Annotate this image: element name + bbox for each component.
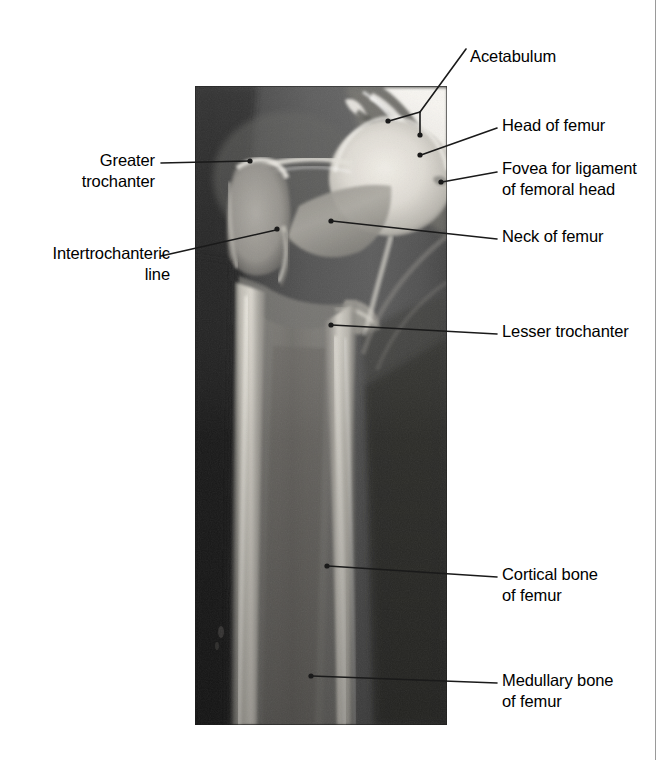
label-neck-of-femur: Neck of femur [502,226,603,247]
page-margin-rule [655,0,656,760]
label-medullary-bone-of-femur: Medullary bone of femur [502,670,613,712]
anatomy-figure: Acetabulum Head of femur Fovea for ligam… [0,0,669,760]
film-grain-overlay [195,86,447,725]
radiograph-content [195,86,447,725]
label-intertrochanteric-line: Intertrochanteric line [52,243,170,285]
label-lesser-trochanter: Lesser trochanter [502,321,629,342]
label-cortical-bone-of-femur: Cortical bone of femur [502,564,598,606]
radiograph-canvas [195,86,447,725]
label-greater-trochanter: Greater trochanter [82,150,155,192]
femur-radiograph [195,86,447,725]
label-head-of-femur: Head of femur [502,115,605,136]
label-acetabulum: Acetabulum [470,46,556,67]
leader-fovea [438,172,497,185]
label-fovea-for-ligament-of-femoral-head: Fovea for ligament of femoral head [502,158,637,200]
